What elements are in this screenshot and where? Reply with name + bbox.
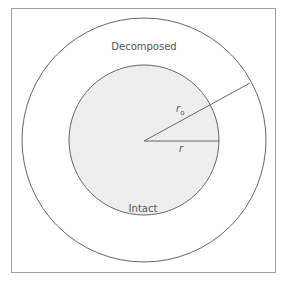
outer-radius-subscript: o [180,109,184,117]
intact-label: Intact [129,203,158,214]
inner-circle-intact [69,65,219,215]
shrinking-core-diagram: Decomposed Intact ro r [0,0,285,281]
decomposed-label: Decomposed [111,41,176,52]
